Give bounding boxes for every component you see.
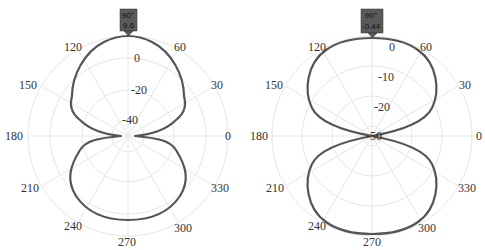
right-radial-label-minus50: -50 xyxy=(366,129,382,143)
right-tooltip: 90° -0.44 xyxy=(361,9,383,38)
right-angle-label-330: 330 xyxy=(458,181,476,195)
left-angle-label-0: 0 xyxy=(225,129,231,143)
left-polar-plot: 0 -20 -40 0 30 60 120 150 180 210 240 27… xyxy=(5,9,231,249)
left-radial-label-0: 0 xyxy=(134,51,140,65)
right-radial-label-minus20: -20 xyxy=(374,100,390,114)
right-angle-label-150: 150 xyxy=(265,78,283,92)
left-radial-label-minus20: -20 xyxy=(131,83,147,97)
right-angle-label-30: 30 xyxy=(459,78,471,92)
right-angle-label-60: 60 xyxy=(420,40,432,54)
left-tooltip-angle: 90° xyxy=(122,11,134,20)
right-angle-label-210: 210 xyxy=(266,181,284,195)
right-angle-label-270: 270 xyxy=(363,235,381,249)
left-angle-label-120: 120 xyxy=(64,40,82,54)
left-angle-label-30: 30 xyxy=(211,78,223,92)
right-angle-label-120: 120 xyxy=(308,40,326,54)
left-angle-label-150: 150 xyxy=(19,78,37,92)
right-radial-label-minus10: -10 xyxy=(378,70,394,84)
left-angle-label-180: 180 xyxy=(5,129,23,143)
left-angle-label-60: 60 xyxy=(174,40,186,54)
left-radial-label-minus40: -40 xyxy=(122,113,138,127)
right-tooltip-angle: 90° xyxy=(365,11,377,20)
polar-charts: 0 -20 -40 0 30 60 120 150 180 210 240 27… xyxy=(0,0,485,250)
left-grid xyxy=(28,36,228,236)
right-radial-label-0: 0 xyxy=(389,40,395,54)
right-angle-label-300: 300 xyxy=(418,221,436,235)
right-angle-label-0: 0 xyxy=(476,129,482,143)
right-polar-plot: 0 -10 -20 -50 0 30 60 120 150 180 210 24… xyxy=(250,9,482,249)
left-angle-label-330: 330 xyxy=(211,181,229,195)
left-angle-label-270: 270 xyxy=(118,235,136,249)
left-angle-label-240: 240 xyxy=(64,219,82,233)
right-angle-label-180: 180 xyxy=(250,129,268,143)
left-tooltip-value: 9.6 xyxy=(123,21,135,30)
left-tooltip: 90° 9.6 xyxy=(120,9,137,36)
left-angle-label-210: 210 xyxy=(21,181,39,195)
right-tooltip-value: -0.44 xyxy=(362,22,381,31)
left-angle-label-300: 300 xyxy=(174,221,192,235)
right-angle-label-240: 240 xyxy=(308,219,326,233)
